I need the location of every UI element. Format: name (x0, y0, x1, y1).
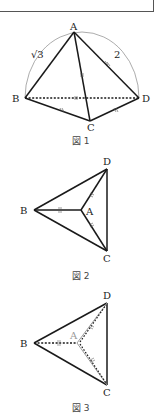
vertex-label-c: C (103, 387, 111, 398)
figure-1-caption: 図 1 (72, 136, 90, 146)
vertex-label-d: D (142, 93, 150, 104)
tetrahedron-diagrams: A B D C √3 2 図 1 D B A C 図 2 (0, 0, 162, 413)
vertex-label-b: B (20, 205, 27, 216)
edge-ad (81, 169, 107, 210)
figure-3: D B A C 図 3 (20, 290, 111, 413)
figure-1: A B D C √3 2 図 1 (12, 21, 150, 146)
arc (25, 32, 139, 98)
vertex-label-c: C (103, 253, 111, 264)
figure-3-caption: 図 3 (72, 403, 90, 413)
edge-bc (25, 98, 90, 121)
vertex-label-a: A (69, 21, 78, 32)
figure-2-caption: 図 2 (72, 271, 90, 281)
vertex-label-a: A (69, 330, 78, 341)
edge-ac (81, 210, 107, 251)
vertex-label-d: D (103, 156, 111, 167)
edge-bc (34, 343, 107, 385)
vertex-label-d: D (103, 290, 111, 301)
edge-label-ab: √3 (31, 49, 44, 60)
edge-bd (34, 169, 107, 210)
figure-2: D B A C 図 2 (20, 156, 111, 281)
vertex-label-b: B (20, 338, 27, 349)
edge-bc (34, 210, 107, 251)
vertex-label-a: A (85, 206, 94, 217)
vertex-label-c: C (87, 122, 95, 133)
vertex-label-b: B (12, 93, 19, 104)
edge-label-ad: 2 (114, 49, 120, 60)
edge-ac-faded (77, 343, 107, 385)
